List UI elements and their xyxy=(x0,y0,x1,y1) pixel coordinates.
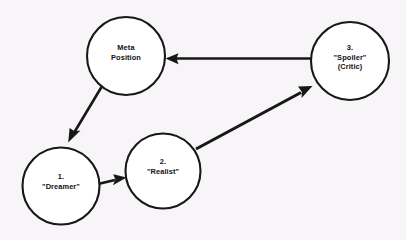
node-realist[interactable] xyxy=(126,134,201,209)
disney-strategy-diagram: Meta Position 1. "Dreamer" 2. "Realist" … xyxy=(0,0,406,240)
diagram-canvas xyxy=(0,0,406,240)
node-dreamer[interactable] xyxy=(23,148,100,225)
arrow-dreamer-to-realist xyxy=(98,174,127,185)
arrow-meta-to-dreamer-shaft xyxy=(75,87,102,132)
arrow-dreamer-to-realist-head xyxy=(113,174,127,185)
arrow-realist-to-spoiler-shaft xyxy=(196,93,301,150)
arrow-dreamer-to-realist-shaft xyxy=(98,180,115,184)
arrow-spoiler-to-meta xyxy=(166,53,312,64)
arrow-meta-to-dreamer xyxy=(68,87,101,143)
arrow-spoiler-to-meta-head xyxy=(166,53,179,64)
arrow-realist-to-spoiler xyxy=(196,86,313,149)
node-meta-position[interactable] xyxy=(87,17,165,95)
node-spoiler-critic[interactable] xyxy=(311,22,389,100)
